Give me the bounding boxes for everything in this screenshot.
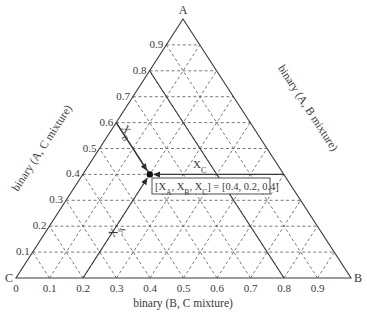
left-tick-label: 0.9 [150,38,164,50]
bottom-tick-label: 0.6 [210,282,224,294]
bottom-tick-label: 0.2 [76,282,90,294]
bottom-tick-label: 0.3 [110,282,124,294]
bottom-tick-labels: 00.10.20.30.40.50.60.70.80.9 [13,282,325,294]
vertex-b-label: B [354,271,362,285]
left-tick-label: 0.4 [66,167,80,179]
bottom-tick-label: 0.4 [143,282,157,294]
composition-point [147,171,153,177]
grid-line [251,200,301,278]
grid-line [100,149,184,279]
left-tick-label: 0.7 [116,90,130,102]
left-axis-label: binary (A, C mixture) [9,102,75,193]
left-tick-label: 0.2 [33,219,47,231]
grid-line [66,200,116,278]
ternary-diagram: A B C 0.10.20.30.40.50.60.70.80.9 00.10.… [0,0,367,318]
grid-line [50,45,200,278]
xc-label: XC [193,158,206,175]
bottom-tick-label: 0.7 [244,282,258,294]
left-tick-label: 0.6 [99,116,113,128]
left-tick-label: 0.3 [49,193,63,205]
vertex-a-label: A [179,3,188,17]
bottom-tick-label: 0.1 [43,282,57,294]
grid-line [33,252,50,278]
bottom-tick-label: 0.5 [177,282,191,294]
bottom-tick-label: 0.9 [311,282,325,294]
left-tick-label: 0.8 [133,64,147,76]
bottom-tick-label: 0 [13,282,19,294]
xa-line [83,179,147,279]
vertex-c-label: C [5,271,13,285]
left-tick-label: 0.1 [16,245,30,257]
bottom-axis-label: binary (B, C mixture) [133,297,233,310]
grid-line [318,252,335,278]
composition-annotation: [XA, XB, XC] = [0.4, 0.2, 0.4] [152,178,279,197]
left-tick-label: 0.5 [83,142,97,154]
right-axis-label: binary (A, B mixture) [275,62,341,153]
bottom-tick-label: 0.8 [277,282,291,294]
